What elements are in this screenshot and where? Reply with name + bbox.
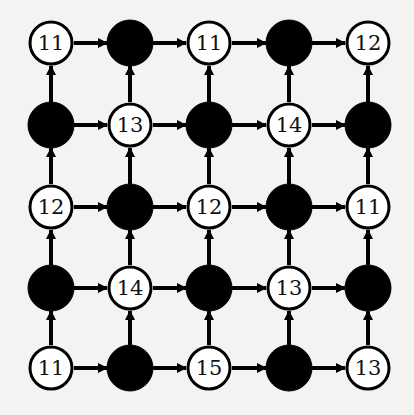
labeled-node: 12 <box>347 22 389 64</box>
filled-circle <box>186 102 232 148</box>
labeled-node: 15 <box>188 347 230 389</box>
filled-node <box>186 265 232 311</box>
node-value-label: 11 <box>196 31 223 55</box>
filled-circle <box>345 102 391 148</box>
node-value-label: 13 <box>355 356 382 380</box>
filled-node <box>186 102 232 148</box>
node-value-label: 11 <box>38 31 65 55</box>
filled-circle <box>28 265 74 311</box>
filled-circle <box>266 20 312 66</box>
filled-node <box>266 20 312 66</box>
filled-circle <box>266 345 312 391</box>
filled-circle <box>107 345 153 391</box>
grid-graph-diagram: 11111213141212111413111513 <box>0 0 414 415</box>
node-value-label: 15 <box>196 356 223 380</box>
filled-node <box>107 20 153 66</box>
labeled-node: 14 <box>109 267 151 309</box>
filled-circle <box>28 102 74 148</box>
filled-circle <box>107 184 153 230</box>
node-value-label: 13 <box>276 276 303 300</box>
node-value-label: 11 <box>38 356 65 380</box>
filled-node <box>345 102 391 148</box>
labeled-node: 13 <box>347 347 389 389</box>
labeled-node: 12 <box>30 186 72 228</box>
filled-circle <box>107 20 153 66</box>
labeled-node: 11 <box>30 347 72 389</box>
node-value-label: 14 <box>117 276 144 300</box>
filled-circle <box>186 265 232 311</box>
node-value-label: 12 <box>196 195 223 219</box>
node-value-label: 13 <box>117 113 144 137</box>
filled-node <box>28 102 74 148</box>
labeled-node: 14 <box>268 104 310 146</box>
labeled-node: 13 <box>268 267 310 309</box>
labeled-node: 13 <box>109 104 151 146</box>
node-value-label: 11 <box>355 195 382 219</box>
filled-circle <box>266 184 312 230</box>
node-value-label: 12 <box>355 31 382 55</box>
filled-node <box>266 184 312 230</box>
filled-circle <box>345 265 391 311</box>
node-value-label: 14 <box>276 113 303 137</box>
filled-node <box>266 345 312 391</box>
node-value-label: 12 <box>38 195 65 219</box>
filled-node <box>28 265 74 311</box>
filled-node <box>107 345 153 391</box>
labeled-node: 11 <box>347 186 389 228</box>
filled-node <box>345 265 391 311</box>
labeled-node: 11 <box>188 22 230 64</box>
labeled-node: 12 <box>188 186 230 228</box>
labeled-node: 11 <box>30 22 72 64</box>
filled-node <box>107 184 153 230</box>
